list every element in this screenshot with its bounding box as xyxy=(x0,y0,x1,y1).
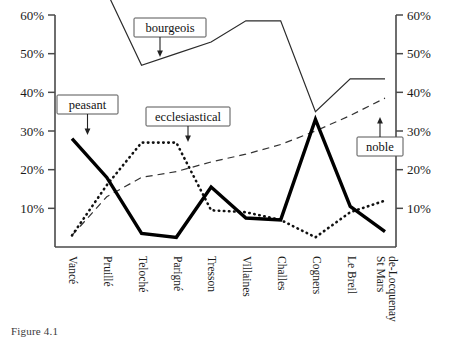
y-axis-right: 60%50%40%30%20%10% xyxy=(396,8,431,248)
series-line-bourgeois xyxy=(72,0,385,112)
y-tick-label-left: 30% xyxy=(20,124,44,139)
y-tick-label-right: 20% xyxy=(407,162,431,177)
annotation-arrowhead-noble xyxy=(377,117,383,124)
y-tick-label-right: 50% xyxy=(407,46,431,61)
x-axis-label: Vancé xyxy=(67,256,79,284)
y-tick-label-left: 40% xyxy=(20,85,44,100)
annotation-arrowhead-peasant xyxy=(85,129,91,136)
x-axis-label: de-Locquenay xyxy=(386,256,399,322)
x-axis-label: Tresson xyxy=(206,256,218,292)
figure-caption: Figure 4.1 xyxy=(11,325,58,337)
annotation-arrowhead-ecclesiastical xyxy=(185,136,191,143)
y-tick-label-right: 10% xyxy=(407,201,431,216)
annotation-label-ecclesiastical: ecclesiastical xyxy=(155,110,221,124)
y-tick-label-right: 60% xyxy=(407,8,431,23)
annotation-label-peasant: peasant xyxy=(69,98,107,112)
annotation-ecclesiastical: ecclesiastical xyxy=(146,107,230,142)
y-axis-left-ticks xyxy=(48,15,55,208)
x-axis-category-labels: VancéPruilléTelochéParignéTressonVillain… xyxy=(67,256,399,322)
annotation-arrowhead-bourgeois xyxy=(157,51,163,58)
annotation-bourgeois: bourgeois xyxy=(134,18,206,57)
y-tick-label-right: 40% xyxy=(407,85,431,100)
annotation-label-bourgeois: bourgeois xyxy=(145,21,194,35)
y-tick-label-left: 10% xyxy=(20,201,44,216)
y-axis-right-tick-labels: 60%50%40%30%20%10% xyxy=(407,8,431,216)
y-tick-label-right: 30% xyxy=(407,124,431,139)
x-axis-label: Teloché xyxy=(137,256,149,292)
annotation-label-noble: noble xyxy=(366,140,394,154)
x-axis-label: Cogners xyxy=(310,256,323,295)
x-axis-label: St Mars xyxy=(375,256,387,293)
y-axis-left-tick-labels: 60%50%40%30%20%10% xyxy=(20,8,44,216)
x-axis-label: Challes xyxy=(276,256,288,291)
x-axis-label: Parigné xyxy=(171,256,184,291)
y-tick-label-left: 20% xyxy=(20,162,44,177)
y-axis-right-ticks xyxy=(396,15,403,208)
annotation-peasant: peasant xyxy=(57,95,118,135)
y-tick-label-left: 50% xyxy=(20,46,44,61)
y-axis-left: 60%50%40%30%20%10% xyxy=(20,8,55,248)
x-axis-label: Pruillé xyxy=(102,256,114,287)
series-line-peasant xyxy=(72,119,385,237)
x-axis-label: Villaines xyxy=(241,256,253,297)
x-axis-label: Le Breil xyxy=(346,256,358,294)
y-tick-label-left: 60% xyxy=(20,8,44,23)
